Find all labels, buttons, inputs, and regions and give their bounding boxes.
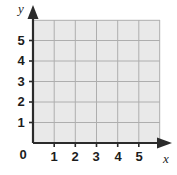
coordinate-grid-figure: 0 1 2 3 4 5 1 2 3 4 5 y x	[0, 0, 177, 175]
origin-label: 0	[15, 148, 31, 161]
y-tick-label-5: 5	[13, 34, 29, 47]
x-tick-label-3: 3	[88, 150, 104, 163]
x-axis-arrowhead	[157, 138, 172, 149]
y-tick-label-3: 3	[13, 75, 29, 88]
x-tick-label-4: 4	[110, 150, 126, 163]
x-tick-label-5: 5	[131, 150, 147, 163]
y-tick-label-2: 2	[13, 95, 29, 108]
y-axis-arrowhead	[28, 5, 39, 19]
x-tick-label-2: 2	[67, 150, 83, 163]
x-tick-label-1: 1	[46, 150, 62, 163]
y-tick-label-1: 1	[13, 116, 29, 129]
y-axis-label: y	[18, 2, 24, 15]
y-tick-label-4: 4	[13, 54, 29, 67]
x-axis-label: x	[163, 152, 169, 165]
